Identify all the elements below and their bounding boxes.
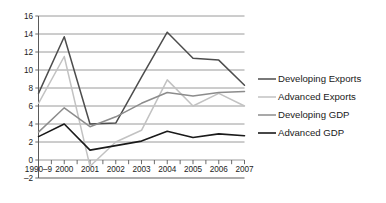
x-tick-label: 2007 [235, 165, 254, 174]
legend-label-developing-exports: Developing Exports [278, 73, 361, 84]
y-tick-label: 12 [24, 48, 34, 57]
y-tick-label: 4 [28, 120, 33, 129]
series-line-developing-gdp [39, 92, 245, 133]
legend-label-advanced-exports: Advanced Exports [278, 91, 356, 102]
x-tick-label: 2000 [55, 165, 74, 174]
y-tick-label: 6 [28, 102, 33, 111]
y-tick-labels: –20246810121416 [24, 12, 34, 183]
x-tick-label: 2004 [158, 165, 177, 174]
x-tick-marks [39, 160, 245, 164]
y-tick-label: 10 [24, 66, 34, 75]
chart-legend: Developing ExportsAdvanced ExportsDevelo… [258, 73, 361, 138]
gridlines [39, 16, 245, 160]
y-tick-label: 16 [24, 12, 34, 21]
legend-label-advanced-gdp: Advanced GDP [278, 127, 344, 138]
x-tick-labels: 1990–920002001200220032004200520062007 [25, 165, 254, 174]
legend-label-developing-gdp: Developing GDP [278, 109, 349, 120]
x-tick-label: 2002 [107, 165, 126, 174]
y-tick-label: 14 [24, 30, 34, 39]
x-tick-label: 2005 [184, 165, 203, 174]
x-tick-label: 1990–9 [25, 165, 53, 174]
y-tick-label: 8 [28, 84, 33, 93]
series-line-advanced-gdp [39, 124, 245, 150]
y-tick-label: 0 [28, 156, 33, 165]
y-tick-label: –2 [24, 174, 34, 183]
chart-canvas: –20246810121416 1990–9200020012002200320… [0, 0, 386, 203]
x-tick-label: 2006 [210, 165, 229, 174]
line-chart: –20246810121416 1990–9200020012002200320… [0, 0, 386, 203]
y-tick-label: 2 [28, 138, 33, 147]
x-tick-label: 2003 [132, 165, 151, 174]
